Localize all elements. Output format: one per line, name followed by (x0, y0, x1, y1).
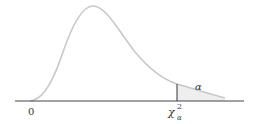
chi-square-diagram: 0 χ 2 α α (0, 0, 255, 124)
critical-value-subscript: α (177, 114, 182, 122)
critical-value-superscript: 2 (177, 102, 182, 111)
tail-area-label: α (195, 81, 202, 92)
critical-value-label: χ (167, 106, 176, 119)
origin-label: 0 (28, 106, 34, 117)
